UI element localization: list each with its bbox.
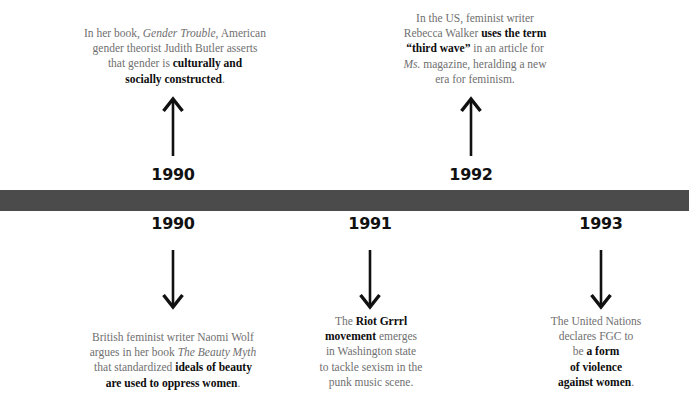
note-text: Gender Trouble — [143, 27, 216, 39]
note-text: declares FGC to — [559, 330, 634, 342]
note-text: emerges — [376, 330, 417, 342]
note-text: “third wave” — [406, 42, 470, 54]
note-text: ideals of beauty — [175, 361, 252, 373]
note-text: In the US, feminist writer — [416, 12, 534, 24]
note-text: . — [222, 73, 225, 85]
note-line: to tackle sexism in the — [298, 360, 444, 375]
note-line: “third wave” in an article for — [370, 41, 580, 56]
year-label-1990-above: 1990 — [113, 166, 233, 184]
note-line: are used to oppress women. — [53, 376, 293, 391]
note-text: against women — [558, 376, 631, 388]
note-text: gender theorist Judith Butler asserts — [93, 42, 258, 54]
note-text: that standardized — [94, 361, 175, 373]
note-line: that standardized ideals of beauty — [53, 360, 293, 375]
note-text: Riot Grrrl — [356, 315, 407, 327]
arrow-up-icon — [160, 96, 186, 158]
note-text: The Beauty Myth — [178, 346, 257, 358]
note-line: of violence — [528, 360, 664, 375]
note-line: The United Nations — [528, 314, 664, 329]
note-text: that gender is — [108, 57, 173, 69]
note-text: punk music scene. — [329, 376, 414, 388]
event-note-1991-below: The Riot Grrrlmovement emergesin Washing… — [298, 314, 444, 390]
note-line: against women. — [528, 375, 664, 390]
note-line: The Riot Grrrl — [298, 314, 444, 329]
note-text: , American — [216, 27, 266, 39]
note-text: uses the term — [481, 27, 546, 39]
note-line: era for feminism. — [370, 72, 580, 87]
note-text: in an article for — [470, 42, 543, 54]
arrow-down-icon — [357, 250, 383, 310]
note-line: declares FGC to — [528, 329, 664, 344]
note-text: of violence — [570, 361, 622, 373]
note-text: In her book, — [84, 27, 143, 39]
note-line: In the US, feminist writer — [370, 11, 580, 26]
note-text: The — [335, 315, 356, 327]
note-text: movement — [325, 330, 376, 342]
year-label-1993-below: 1993 — [541, 215, 661, 233]
event-note-1993-below: The United Nationsdeclares FGC tobe a fo… — [528, 314, 664, 390]
note-text: era for feminism. — [435, 73, 515, 85]
note-line: gender theorist Judith Butler asserts — [45, 41, 305, 56]
note-text: culturally and — [173, 57, 242, 69]
timeline-diagram: In her book, Gender Trouble, Americangen… — [0, 0, 689, 398]
note-line: In her book, Gender Trouble, American — [45, 26, 305, 41]
year-label-1991-below: 1991 — [310, 215, 430, 233]
note-text: be — [573, 345, 587, 357]
note-text: British feminist writer Naomi Wolf — [92, 331, 254, 343]
note-line: punk music scene. — [298, 375, 444, 390]
arrow-down-icon — [588, 250, 614, 310]
year-label-1990-below: 1990 — [113, 215, 233, 233]
note-line: that gender is culturally and — [45, 56, 305, 71]
event-note-1992-above: In the US, feminist writerRebecca Walker… — [370, 11, 580, 87]
note-line: argues in her book The Beauty Myth — [53, 345, 293, 360]
note-text: socially constructed — [125, 73, 222, 85]
event-note-1990-below: British feminist writer Naomi Wolfargues… — [53, 330, 293, 391]
note-line: Rebecca Walker uses the term — [370, 26, 580, 41]
note-line: Ms. magazine, heralding a new — [370, 57, 580, 72]
note-text: to tackle sexism in the — [320, 361, 423, 373]
note-text: Ms. — [403, 58, 420, 70]
note-text: . — [631, 376, 634, 388]
year-label-1992-above: 1992 — [411, 166, 531, 184]
note-text: Rebecca Walker — [404, 27, 481, 39]
note-line: be a form — [528, 344, 664, 359]
note-text: . — [237, 377, 240, 389]
arrow-up-icon — [458, 96, 484, 158]
note-line: in Washington state — [298, 344, 444, 359]
note-text: argues in her book — [90, 346, 178, 358]
event-note-1990-above: In her book, Gender Trouble, Americangen… — [45, 26, 305, 87]
note-text: magazine, heralding a new — [420, 58, 546, 70]
note-text: The United Nations — [551, 315, 642, 327]
note-line: British feminist writer Naomi Wolf — [53, 330, 293, 345]
arrow-down-icon — [160, 250, 186, 310]
note-text: are used to oppress women — [106, 377, 238, 389]
timeline-bar — [0, 190, 689, 211]
note-line: movement emerges — [298, 329, 444, 344]
note-line: socially constructed. — [45, 72, 305, 87]
note-text: a form — [586, 345, 619, 357]
note-text: in Washington state — [326, 345, 416, 357]
